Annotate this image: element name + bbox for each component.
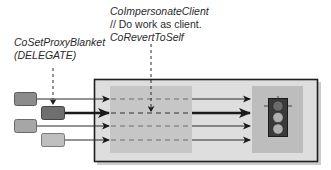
client-box-2-delegated	[42, 107, 65, 120]
impersonate-annotation-line1: CoImpersonateClient	[110, 5, 209, 17]
impersonate-annotation-line3: CoRevertToSelf	[110, 31, 184, 43]
impersonate-annotation-line2: // Do work as client.	[110, 18, 202, 30]
traffic-light-icon	[264, 96, 292, 137]
impersonation-zone	[110, 86, 192, 153]
client-box-1	[15, 93, 37, 106]
client-box-3	[15, 120, 37, 133]
delegate-annotation-line1: CoSetProxyBlanket	[14, 36, 105, 48]
client-box-4	[42, 134, 65, 147]
delegate-annotation-line2: (DELEGATE)	[14, 49, 76, 61]
